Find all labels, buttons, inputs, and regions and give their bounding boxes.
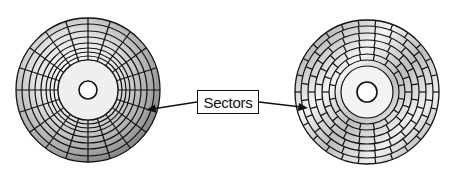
- right-disk: [295, 20, 439, 164]
- sectors-label: Sectors: [197, 90, 259, 114]
- left-disk: [16, 18, 160, 162]
